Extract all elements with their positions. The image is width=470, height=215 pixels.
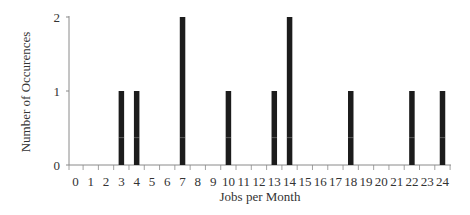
x-ticks: 0123456789101112131415161718192021222324 bbox=[69, 165, 450, 189]
x-tick-label: 5 bbox=[149, 174, 156, 189]
bar-chart: 012 012345678910111213141516171819202122… bbox=[0, 0, 470, 215]
x-tick-label: 17 bbox=[329, 174, 343, 189]
bar-4 bbox=[134, 91, 140, 165]
axes bbox=[69, 16, 451, 165]
x-tick-label: 18 bbox=[344, 174, 357, 189]
x-tick-label: 0 bbox=[72, 174, 79, 189]
x-tick-label: 19 bbox=[360, 174, 373, 189]
bar-18 bbox=[348, 91, 354, 165]
x-tick-label: 14 bbox=[283, 174, 297, 189]
y-tick-label: 0 bbox=[54, 158, 61, 173]
x-tick-label: 22 bbox=[405, 174, 418, 189]
y-tick-label: 1 bbox=[54, 84, 61, 99]
x-tick-label: 13 bbox=[268, 174, 281, 189]
x-tick-label: 15 bbox=[298, 174, 311, 189]
x-tick-label: 2 bbox=[103, 174, 110, 189]
bar-13 bbox=[272, 91, 278, 165]
x-tick-label: 9 bbox=[210, 174, 217, 189]
bar-24 bbox=[440, 91, 446, 165]
x-tick-label: 20 bbox=[375, 174, 388, 189]
x-tick-label: 23 bbox=[421, 174, 434, 189]
bar-7 bbox=[180, 17, 186, 165]
bar-3 bbox=[119, 91, 125, 165]
x-tick-label: 4 bbox=[133, 174, 140, 189]
bar-22 bbox=[409, 91, 415, 165]
x-tick-label: 6 bbox=[164, 174, 171, 189]
y-ticks: 012 bbox=[54, 10, 70, 173]
x-tick-label: 10 bbox=[222, 174, 235, 189]
x-tick-label: 3 bbox=[118, 174, 125, 189]
y-tick-label: 2 bbox=[54, 10, 61, 25]
bars bbox=[119, 17, 446, 165]
x-tick-label: 8 bbox=[195, 174, 202, 189]
x-tick-label: 11 bbox=[237, 174, 250, 189]
x-tick-label: 16 bbox=[314, 174, 328, 189]
x-tick-label: 1 bbox=[88, 174, 95, 189]
x-tick-label: 24 bbox=[436, 174, 450, 189]
y-axis-title: Number of Occurences bbox=[18, 32, 33, 153]
x-axis-title: Jobs per Month bbox=[220, 189, 301, 204]
x-tick-label: 7 bbox=[179, 174, 186, 189]
x-tick-label: 12 bbox=[253, 174, 266, 189]
bar-10 bbox=[226, 91, 232, 165]
x-tick-label: 21 bbox=[390, 174, 403, 189]
bar-14 bbox=[287, 17, 293, 165]
